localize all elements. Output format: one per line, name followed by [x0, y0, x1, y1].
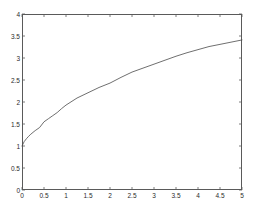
x-tick-label: 0: [20, 192, 24, 199]
x-tick-label: 2.5: [127, 192, 136, 199]
x-tick-label: 4.5: [215, 192, 224, 199]
y-tick-label: 0: [16, 187, 20, 194]
figure-canvas: 00.511.522.533.544.55 00.511.522.533.54: [0, 0, 257, 215]
x-tick-label: 5: [240, 192, 244, 199]
plot-drawing-area: [22, 14, 242, 190]
y-tick-label: 1.5: [11, 121, 20, 128]
y-axis-ticks: [22, 14, 242, 190]
x-tick-label: 3: [152, 192, 156, 199]
data-series-group: [22, 40, 242, 146]
y-tick-label: 1: [16, 143, 20, 150]
x-tick-label: 0.5: [39, 192, 48, 199]
y-tick-label: 0.5: [11, 165, 20, 172]
x-axis-ticks: [22, 14, 242, 190]
x-tick-label: 1: [64, 192, 68, 199]
x-tick-label: 4: [196, 192, 200, 199]
x-tick-label: 1.5: [83, 192, 92, 199]
x-tick-label: 2: [108, 192, 112, 199]
y-tick-label: 2.5: [11, 77, 20, 84]
y-tick-label: 3.5: [11, 33, 20, 40]
data-line-curve: [22, 40, 242, 146]
y-tick-label: 2: [16, 99, 20, 106]
y-tick-label: 3: [16, 55, 20, 62]
x-tick-label: 3.5: [171, 192, 180, 199]
y-tick-label: 4: [16, 11, 20, 18]
